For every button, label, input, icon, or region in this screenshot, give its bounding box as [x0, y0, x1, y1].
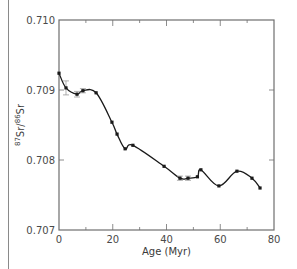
- data-point-marker: [57, 72, 60, 75]
- x-tick-label: 60: [214, 234, 227, 245]
- strontium-isotope-chart: 0204060800.7070.7080.7090.710Age (Myr)87…: [0, 0, 297, 269]
- y-tick-label: 0.708: [26, 155, 55, 166]
- data-point-marker: [162, 165, 165, 168]
- x-tick-label: 80: [268, 234, 281, 245]
- y-axis-label: 87Sr/86Sr: [14, 103, 26, 146]
- x-tick-label: 20: [106, 234, 119, 245]
- data-curve: [59, 73, 260, 188]
- x-tick-label: 0: [56, 234, 62, 245]
- data-point-marker: [217, 184, 220, 187]
- data-point-marker: [131, 144, 134, 147]
- data-point-marker: [115, 133, 118, 136]
- data-point-marker: [81, 89, 84, 92]
- y-tick-label: 0.709: [26, 85, 55, 96]
- data-point-marker: [94, 91, 97, 94]
- data-point-marker: [250, 177, 253, 180]
- data-point-marker: [196, 175, 199, 178]
- data-point-marker: [235, 170, 238, 173]
- x-tick-label: 40: [160, 234, 173, 245]
- data-point-marker: [178, 177, 181, 180]
- y-tick-label: 0.707: [26, 225, 55, 236]
- data-point-marker: [186, 177, 189, 180]
- data-point-marker: [110, 121, 113, 124]
- data-point-marker: [258, 186, 261, 189]
- data-point-marker: [64, 86, 67, 89]
- data-point-marker: [124, 147, 127, 150]
- data-point-marker: [199, 168, 202, 171]
- data-point-marker: [75, 93, 78, 96]
- plot-frame: [59, 20, 274, 230]
- y-tick-label: 0.710: [26, 15, 55, 26]
- x-axis-label: Age (Myr): [142, 246, 191, 257]
